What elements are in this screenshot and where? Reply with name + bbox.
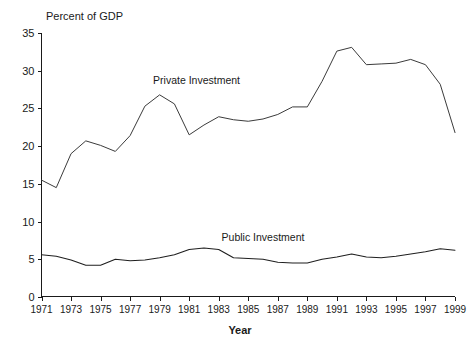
y-axis-ticks: 05101520253035 <box>22 27 41 303</box>
x-tick-label: 1991 <box>326 304 349 315</box>
y-tick-label: 20 <box>22 140 34 152</box>
x-tick-label: 1973 <box>60 304 83 315</box>
series-line-private-investment <box>42 47 456 187</box>
y-tick-label: 30 <box>22 65 34 77</box>
x-tick-label: 1979 <box>149 304 172 315</box>
x-tick-label: 1997 <box>414 304 437 315</box>
x-tick-label: 1971 <box>30 304 53 315</box>
x-tick-label: 1977 <box>119 304 142 315</box>
y-tick-label: 35 <box>22 27 34 39</box>
x-tick-label: 1995 <box>385 304 408 315</box>
x-tick-label: 1985 <box>237 304 260 315</box>
series-line-public-investment <box>42 248 456 265</box>
y-tick-label: 25 <box>22 102 34 114</box>
x-tick-label: 1983 <box>208 304 231 315</box>
y-axis-title: Percent of GDP <box>46 10 123 22</box>
series-label-public-investment: Public Investment <box>222 231 305 243</box>
x-tick-label: 1981 <box>178 304 201 315</box>
x-tick-label: 1999 <box>444 304 467 315</box>
x-axis-ticks: 1971197319751977197919811983198519871989… <box>30 297 466 315</box>
chart-container: Percent of GDP 05101520253035 1971197319… <box>0 0 474 344</box>
y-tick-label: 10 <box>22 216 34 228</box>
x-tick-label: 1989 <box>296 304 319 315</box>
y-tick-label: 5 <box>28 253 34 265</box>
series-label-private-investment: Private Investment <box>153 74 240 86</box>
y-tick-label: 0 <box>28 291 34 303</box>
x-axis-title-label: Year <box>228 324 252 336</box>
x-tick-label: 1987 <box>267 304 290 315</box>
line-chart: Percent of GDP 05101520253035 1971197319… <box>0 0 474 344</box>
x-tick-label: 1993 <box>355 304 378 315</box>
y-axis-title-label: Percent of GDP <box>46 10 123 22</box>
y-tick-label: 15 <box>22 178 34 190</box>
x-tick-label: 1975 <box>89 304 112 315</box>
